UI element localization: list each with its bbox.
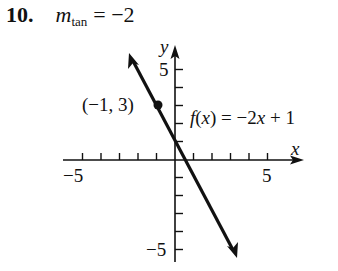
y-tick-label-5: 5: [159, 59, 169, 80]
tangent-line-graph: −5 5 x 5 −5 y (−1, 3) f(x) = −2x + 1: [0, 0, 338, 271]
function-label: f(x) = −2x + 1: [190, 107, 295, 129]
tangent-point-marker: [154, 101, 163, 110]
point-label: (−1, 3): [82, 94, 134, 116]
y-axis-label: y: [158, 36, 169, 57]
x-tick-label-5: 5: [262, 165, 272, 186]
x-axis-label: x: [290, 138, 300, 159]
tangent-line: [128, 53, 238, 258]
x-axis: −5 5 x: [63, 138, 304, 186]
y-axis: 5 −5 y: [146, 36, 183, 262]
y-tick-label-neg5: −5: [146, 239, 166, 260]
x-tick-label-neg5: −5: [63, 165, 83, 186]
